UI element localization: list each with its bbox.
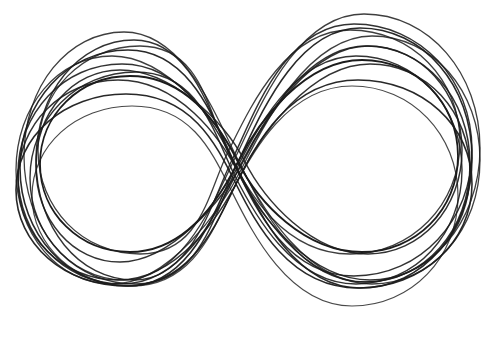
scribble-loop	[20, 28, 472, 288]
figure-eight-scribble	[0, 0, 499, 343]
scribble-loop	[40, 60, 458, 252]
scribble-loops	[16, 14, 480, 306]
